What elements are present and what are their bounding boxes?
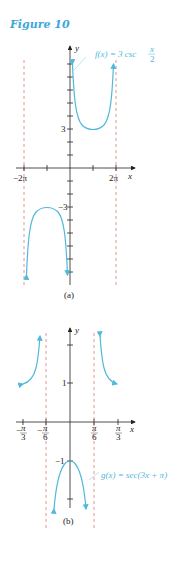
caption-b: (b) bbox=[63, 516, 74, 526]
figure-canvas: y x −2π 2π 3 −3 f(x) = 3 csc x 2 (a) bbox=[0, 0, 186, 580]
svg-text:f(x) = 3 csc: f(x) = 3 csc bbox=[95, 49, 136, 59]
y-tick-label-3: 3 bbox=[61, 124, 66, 134]
x-tick-labels-b: − π 3 − π 6 π 6 π 3 bbox=[16, 423, 122, 442]
x-axis-label: x bbox=[127, 171, 132, 181]
svg-text:2: 2 bbox=[150, 54, 155, 64]
x-tick-label-neg-2pi: −2π bbox=[13, 173, 28, 183]
x-tick-label-2pi: 2π bbox=[109, 173, 119, 183]
equation-f: f(x) = 3 csc x 2 bbox=[95, 44, 155, 64]
graph-b: y x − π 3 − π 6 π 6 π 3 1 −1 g(x) = sec(… bbox=[16, 325, 167, 528]
y-tick-label-1: 1 bbox=[62, 378, 67, 388]
svg-text:3: 3 bbox=[21, 432, 26, 442]
svg-text:6: 6 bbox=[92, 432, 97, 442]
curve-right-branch bbox=[100, 336, 117, 384]
svg-text:−: − bbox=[37, 425, 42, 435]
svg-text:x: x bbox=[149, 44, 154, 54]
curve-upper-branch bbox=[73, 64, 114, 130]
y-tick-label-neg3: −3 bbox=[58, 202, 68, 212]
curve-lower-branch bbox=[27, 208, 68, 276]
curve-left-branch bbox=[23, 336, 40, 384]
y-axis-label: y bbox=[74, 43, 79, 53]
caption-a: (a) bbox=[64, 290, 74, 300]
x-axis-label-b: x bbox=[129, 424, 134, 434]
graph-a: y x −2π 2π 3 −3 f(x) = 3 csc x 2 (a) bbox=[13, 43, 155, 300]
y-tick-label-neg1: −1 bbox=[55, 456, 65, 466]
y-axis-label-b: y bbox=[74, 325, 79, 335]
equation-g: g(x) = sec(3x + π) bbox=[101, 470, 167, 480]
svg-text:3: 3 bbox=[116, 432, 121, 442]
svg-text:6: 6 bbox=[43, 432, 48, 442]
